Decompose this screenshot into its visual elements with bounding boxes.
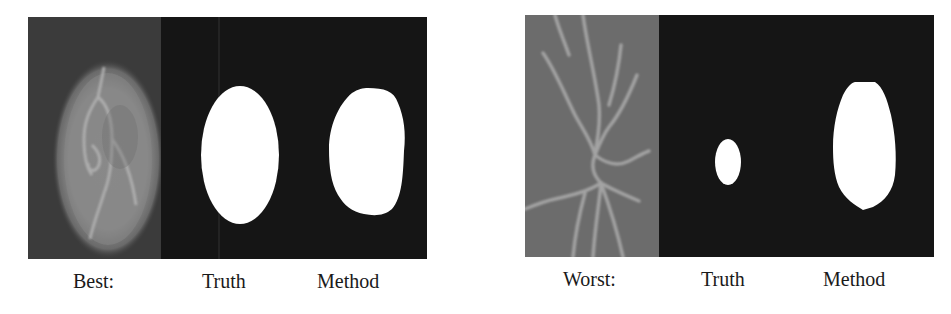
best-method-label: Method: [317, 270, 379, 293]
worst-case-image-strip: [525, 15, 934, 257]
best-truth-label: Truth: [202, 270, 246, 293]
worst-fundus-photo: [525, 15, 659, 257]
best-case-label: Best:: [73, 270, 114, 293]
best-method-mask: [329, 88, 405, 215]
worst-method-mask: [833, 82, 896, 210]
best-case-panel: [28, 17, 427, 259]
worst-truth-mask: [715, 139, 741, 185]
best-case-image-strip: [28, 17, 427, 259]
worst-case-label: Worst:: [563, 268, 616, 291]
worst-truth-label: Truth: [701, 268, 745, 291]
best-fundus-photo: [28, 17, 164, 259]
best-truth-mask: [201, 86, 279, 224]
worst-method-label: Method: [823, 268, 885, 291]
worst-case-panel: [525, 15, 934, 257]
